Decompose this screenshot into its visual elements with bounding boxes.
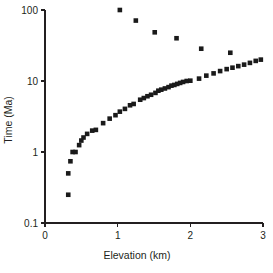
data-point-marker <box>94 128 99 133</box>
data-point-marker <box>248 61 253 66</box>
data-point-marker <box>118 8 123 13</box>
y-tick-label: 0.1 <box>24 218 38 229</box>
axes <box>45 10 263 223</box>
data-point-marker <box>107 116 112 121</box>
data-point-marker <box>218 69 223 74</box>
data-point-marker <box>66 192 71 197</box>
x-axis-title: Elevation (km) <box>103 249 170 261</box>
x-tick-label: 2 <box>188 230 194 241</box>
y-tick-label: 1 <box>32 147 38 158</box>
data-point-marker <box>230 65 235 70</box>
data-point-marker <box>228 50 233 55</box>
data-point-marker <box>197 76 202 81</box>
data-point-marker <box>113 113 118 118</box>
data-point-marker <box>77 143 82 148</box>
data-point-marker <box>253 59 258 64</box>
data-point-marker <box>134 18 139 23</box>
x-tick-label: 3 <box>260 230 266 241</box>
data-point-marker <box>242 62 247 67</box>
data-point-marker <box>188 78 193 83</box>
scatter-plot: 0.1110100 0123 Elevation (km) Time (Ma) <box>0 0 273 273</box>
data-point-marker <box>131 102 136 107</box>
data-point-marker <box>66 171 71 176</box>
data-point-marker <box>68 159 73 164</box>
data-point-marker <box>211 71 216 76</box>
data-points <box>66 8 263 197</box>
x-axis-ticks: 0123 <box>42 223 266 241</box>
y-tick-label: 100 <box>21 5 38 16</box>
data-point-marker <box>85 132 90 137</box>
data-point-marker <box>224 67 229 72</box>
data-point-marker <box>174 36 179 41</box>
data-point-marker <box>199 46 204 51</box>
data-point-marker <box>204 73 209 78</box>
data-point-marker <box>152 30 157 35</box>
data-point-marker <box>259 57 264 62</box>
data-point-marker <box>101 121 106 126</box>
y-axis-ticks: 0.1110100 <box>21 5 45 229</box>
x-tick-label: 1 <box>115 230 121 241</box>
data-point-marker <box>149 92 154 97</box>
data-point-marker <box>73 150 78 155</box>
data-point-marker <box>236 64 241 69</box>
data-point-marker <box>118 109 123 114</box>
y-axis-title: Time (Ma) <box>2 96 14 143</box>
chart-figure: 0.1110100 0123 Elevation (km) Time (Ma) <box>0 0 273 273</box>
x-tick-label: 0 <box>42 230 48 241</box>
y-tick-label: 10 <box>27 76 39 87</box>
data-point-marker <box>123 107 128 112</box>
